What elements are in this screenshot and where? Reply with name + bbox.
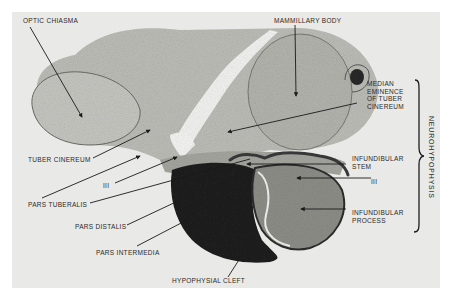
label-pars-distalis: PARS DISTALIS (75, 223, 126, 231)
label-tuber-cinereum: TUBER CINEREUM (28, 156, 91, 164)
label-mammillary-body: MAMMILLARY BODY (274, 17, 341, 25)
label-hypophysial-cleft: HYPOPHYSIAL CLEFT (172, 277, 245, 285)
label-third-ventricle-right: III (371, 178, 377, 186)
label-infundibular-process: INFUNDIBULAR PROCESS (352, 209, 404, 224)
tissue-section-image (12, 12, 440, 288)
micrograph-figure: OPTIC CHIASMA MAMMILLARY BODY MEDIAN EMI… (12, 12, 440, 288)
label-neurohypophysis: NEUROHYPOPHYSIS (428, 116, 435, 199)
label-pars-tuberalis: PARS TUBERALIS (28, 201, 87, 209)
label-infundibular-stem: INFUNDIBULAR STEM (352, 155, 404, 170)
label-optic-chiasma: OPTIC CHIASMA (23, 17, 78, 25)
label-pars-intermedia: PARS INTERMEDIA (96, 249, 160, 257)
label-median-eminence: MEDIAN EMINENCE OF TUBER CINEREUM (367, 80, 404, 110)
label-third-ventricle-left: III (103, 182, 109, 190)
